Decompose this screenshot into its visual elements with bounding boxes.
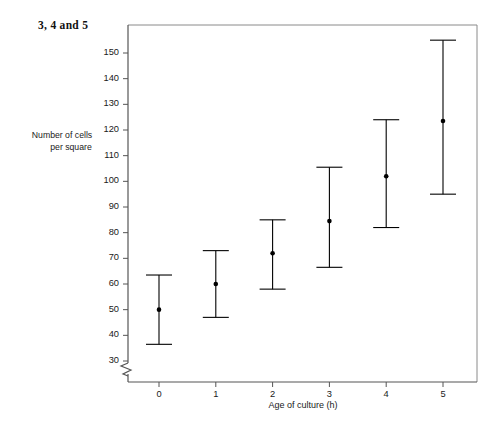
x-tick-label: 1 [206,389,226,399]
y-tick-label: 130 [85,98,119,108]
y-tick-label: 150 [85,47,119,57]
error-bar-point [260,220,286,289]
x-tick-label: 4 [376,389,396,399]
y-tick-label: 50 [85,304,119,314]
axis-break-icon [121,363,131,376]
x-tick-label: 0 [149,389,169,399]
y-tick-label: 110 [85,150,119,160]
y-tick-label: 100 [85,175,119,185]
x-axis-ticks [159,382,443,387]
plot-area [0,0,500,432]
error-bar-point [203,251,229,318]
x-tick-label: 5 [433,389,453,399]
chart-figure: 3, 4 and 5 Number of cells per square Ag… [0,0,500,432]
y-tick-label: 60 [85,278,119,288]
plot-frame [128,25,477,382]
y-tick-label: 40 [85,329,119,339]
y-tick-label: 120 [85,124,119,134]
y-tick-label: 80 [85,227,119,237]
y-axis-ticks [123,53,128,361]
y-tick-label: 140 [85,73,119,83]
error-bar-point [146,275,172,344]
y-tick-label: 70 [85,252,119,262]
error-bar-point [430,40,456,194]
error-bar-point [316,167,342,267]
x-tick-label: 3 [319,389,339,399]
y-tick-label: 90 [85,201,119,211]
error-bar-point [373,120,399,228]
x-tick-label: 2 [263,389,283,399]
data-series-errorbars [146,40,456,344]
y-tick-label: 30 [85,355,119,365]
